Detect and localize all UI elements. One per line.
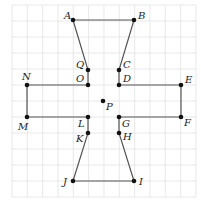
label-h: H	[122, 131, 132, 142]
label-c: C	[123, 59, 131, 70]
vertex-labels: ABCDEFGHIJKLMNOQP	[17, 10, 193, 187]
point-o	[86, 83, 91, 88]
label-e: E	[184, 74, 193, 85]
label-i: I	[138, 176, 144, 187]
label-n: N	[21, 71, 32, 82]
point-a	[71, 18, 76, 23]
label-a: A	[63, 10, 71, 21]
label-q: Q	[76, 59, 84, 70]
label-l: L	[77, 118, 85, 129]
label-f: F	[183, 117, 192, 128]
point-p	[101, 99, 106, 104]
point-e	[179, 83, 184, 88]
label-o: O	[76, 73, 84, 84]
label-p: P	[105, 101, 113, 112]
point-d	[117, 83, 122, 88]
label-k: K	[75, 133, 84, 144]
point-h	[117, 131, 122, 136]
point-q	[86, 68, 91, 73]
point-n	[25, 83, 30, 88]
point-b	[132, 18, 137, 23]
cross-shaped-polygon-diagram: ABCDEFGHIJKLMNOQP	[0, 0, 201, 206]
label-m: M	[17, 121, 29, 132]
point-c	[117, 68, 122, 73]
label-g: G	[122, 118, 130, 129]
label-j: J	[61, 176, 68, 187]
point-j	[71, 179, 76, 184]
point-k	[86, 131, 91, 136]
label-b: B	[137, 10, 145, 21]
point-m	[25, 115, 30, 120]
point-l	[86, 115, 91, 120]
point-i	[132, 179, 137, 184]
point-g	[117, 115, 122, 120]
point-f	[179, 115, 184, 120]
label-d: D	[122, 73, 131, 84]
